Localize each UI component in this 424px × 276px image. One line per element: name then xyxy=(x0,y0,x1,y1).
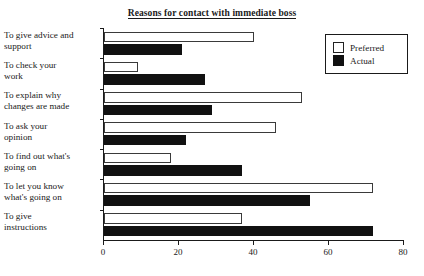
legend-swatch-preferred-icon xyxy=(333,42,344,53)
category-label-0-line-0: To give advice and xyxy=(4,30,102,41)
x-tick-label-3: 60 xyxy=(324,247,333,257)
x-tick-label-1: 20 xyxy=(174,247,183,257)
legend-item-preferred: Preferred xyxy=(333,42,401,53)
chart-container: Reasons for contact with immediate boss … xyxy=(0,0,424,276)
legend-label-actual: Actual xyxy=(350,56,375,66)
category-tick-0 xyxy=(100,28,104,29)
legend-label-preferred: Preferred xyxy=(350,43,384,53)
category-tick-1 xyxy=(100,58,104,59)
bar-preferred-2 xyxy=(104,92,302,103)
x-tick-3 xyxy=(328,240,329,245)
bar-group-5 xyxy=(104,179,403,209)
category-label-4: To find out what's going on xyxy=(4,151,102,172)
bar-actual-1 xyxy=(104,74,205,85)
bar-actual-3 xyxy=(104,135,186,146)
bar-group-3 xyxy=(104,119,403,149)
category-label-1-line-1: work xyxy=(4,71,102,82)
bar-group-6 xyxy=(104,210,403,240)
category-label-0: To give advice and support xyxy=(4,30,102,51)
x-tick-2 xyxy=(253,240,254,245)
category-label-4-line-1: going on xyxy=(4,162,102,173)
category-tick-6 xyxy=(100,210,104,211)
category-label-2: To explain why changes are made xyxy=(4,90,102,111)
category-label-5-line-1: what's going on xyxy=(4,192,102,203)
bar-actual-6 xyxy=(104,226,373,237)
bar-preferred-5 xyxy=(104,183,373,194)
bar-preferred-0 xyxy=(104,32,254,43)
category-label-1-line-0: To check your xyxy=(4,60,102,71)
category-label-2-line-1: changes are made xyxy=(4,101,102,112)
x-tick-4 xyxy=(403,240,404,245)
category-tick-3 xyxy=(100,119,104,120)
category-tick-2 xyxy=(100,89,104,90)
category-label-3-line-0: To ask your xyxy=(4,121,102,132)
bar-preferred-3 xyxy=(104,122,276,133)
category-tick-5 xyxy=(100,179,104,180)
category-label-5: To let you know what's going on xyxy=(4,181,102,202)
category-label-6-line-0: To give xyxy=(4,211,102,222)
x-tick-label-2: 40 xyxy=(249,247,258,257)
category-label-1: To check your work xyxy=(4,60,102,81)
bar-actual-4 xyxy=(104,165,242,176)
chart-title-text: Reasons for contact with immediate boss xyxy=(128,8,297,19)
bar-group-2 xyxy=(104,89,403,119)
bar-preferred-6 xyxy=(104,213,242,224)
category-label-5-line-0: To let you know xyxy=(4,181,102,192)
bar-preferred-4 xyxy=(104,153,171,164)
chart-title: Reasons for contact with immediate boss xyxy=(0,8,424,18)
category-label-3-line-1: opinion xyxy=(4,132,102,143)
chart-legend: Preferred Actual xyxy=(325,34,408,74)
bar-actual-2 xyxy=(104,105,212,116)
bar-actual-0 xyxy=(104,44,182,55)
x-tick-0 xyxy=(103,240,104,245)
x-tick-label-4: 80 xyxy=(399,247,408,257)
bar-group-4 xyxy=(104,149,403,179)
category-label-0-line-1: support xyxy=(4,41,102,52)
category-label-3: To ask your opinion xyxy=(4,121,102,142)
bar-preferred-1 xyxy=(104,62,138,73)
category-label-6-line-1: instructions xyxy=(4,222,102,233)
legend-item-actual: Actual xyxy=(333,55,401,66)
category-label-2-line-0: To explain why xyxy=(4,90,102,101)
legend-swatch-actual-icon xyxy=(333,55,344,66)
category-label-6: To give instructions xyxy=(4,211,102,232)
category-label-4-line-0: To find out what's xyxy=(4,151,102,162)
bar-actual-5 xyxy=(104,195,310,206)
x-tick-label-0: 0 xyxy=(101,247,106,257)
category-tick-4 xyxy=(100,149,104,150)
x-tick-1 xyxy=(178,240,179,245)
